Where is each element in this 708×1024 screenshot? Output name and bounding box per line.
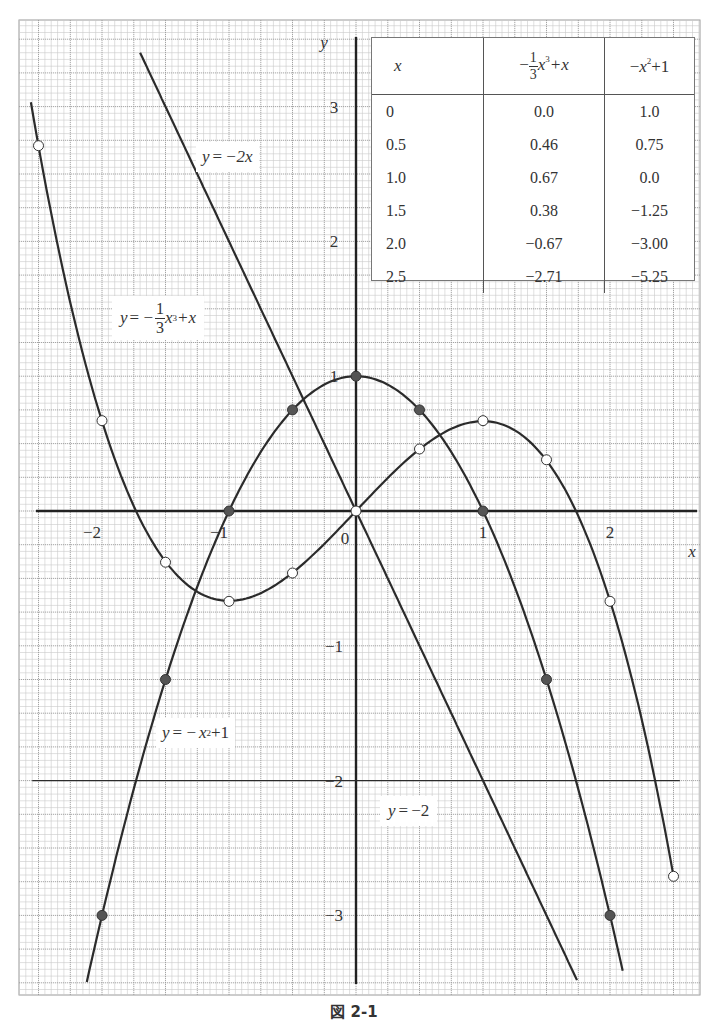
figure: −2−1120−3−2−1123xy x −13x3+x −x2+1 00.01… [0,0,708,1024]
filled-marker [605,910,615,920]
header-parab-sign: − [630,57,640,76]
table-row: 2.0−0.67−3.00 [372,227,694,260]
cell-parab: 1.0 [605,95,695,129]
label-eq: = [213,147,223,167]
cell-parab: −5.25 [605,260,695,293]
y-tick-label: −3 [325,906,343,925]
cell-x: 2.5 [372,260,484,293]
cell-parab: −1.25 [605,194,695,227]
open-marker [542,455,552,465]
header-cubic: −13x3+x [484,38,605,95]
cell-x: 1.0 [372,161,484,194]
table-row: 1.50.38−1.25 [372,194,694,227]
x-tick-label: 1 [479,523,488,542]
label-y-minus-2: y= −2 [380,796,437,826]
cell-parab: −3.00 [605,227,695,260]
open-marker [288,568,298,578]
open-marker [97,416,107,426]
filled-marker [542,675,552,685]
y-tick-label: −2 [325,772,343,791]
label-var: x [165,308,173,328]
open-marker [478,416,488,426]
cell-cubic: −2.71 [484,260,605,293]
open-marker [669,871,679,881]
y-axis-name: y [318,33,328,52]
label-eq: = [399,801,409,821]
table-row: 2.5−2.71−5.25 [372,260,694,293]
header-parabola: −x2+1 [605,38,695,95]
figure-caption: 図 2-1 [0,1000,708,1021]
cell-cubic: 0.67 [484,161,605,194]
x-tick-label: 2 [606,523,615,542]
label-cubic: y= −13x3+x [112,296,204,340]
filled-marker [161,675,171,685]
origin-label: 0 [341,529,350,548]
fraction-numerator: 1 [529,51,538,67]
label-parabola: y= −x2+1 [156,718,235,748]
label-rhs: −2 [411,801,429,821]
open-marker [351,506,361,516]
table-row: 0.50.460.75 [372,128,694,161]
cell-cubic: 0.46 [484,128,605,161]
filled-marker [288,405,298,415]
label-rhs: −2x [225,147,253,167]
header-cubic-suffix: +x [550,55,569,74]
open-marker [161,557,171,567]
fraction-numerator: 1 [155,301,165,319]
label-lhs: y [162,723,170,743]
header-cubic-sign: − [519,55,529,74]
label-lhs: y [120,308,128,328]
y-tick-label: 2 [330,232,339,251]
label-suffix: +x [177,308,196,328]
y-tick-label: 3 [330,98,339,117]
x-tick-label: −2 [83,523,101,542]
fraction: 13 [529,51,538,82]
label-eq: = − [173,723,196,743]
y-tick-label: 1 [330,367,339,386]
x-axis-name: x [687,542,696,561]
label-var: x [199,723,207,743]
y-tick-label: −1 [325,637,343,656]
cell-parab: 0.0 [605,161,695,194]
table-row: 00.01.0 [372,95,694,129]
fraction-denominator: 3 [530,67,537,82]
cell-x: 0.5 [372,128,484,161]
cell-cubic: −0.67 [484,227,605,260]
header-parab-suffix: +1 [651,57,669,76]
cell-parab: 0.75 [605,128,695,161]
filled-marker [415,405,425,415]
cell-cubic: 0.38 [484,194,605,227]
open-marker [34,141,44,151]
filled-marker [97,910,107,920]
header-x: x [372,38,484,95]
filled-marker [478,506,488,516]
fraction-denominator: 3 [156,319,164,336]
label-lhs: y [202,147,210,167]
header-parab-var: x [639,57,647,76]
filled-marker [351,371,361,381]
open-marker [415,444,425,454]
cell-x: 0 [372,95,484,129]
x-tick-label: −1 [210,523,228,542]
value-table: x −13x3+x −x2+1 00.01.0 0.50.460.75 1.00… [371,37,695,281]
cell-x: 1.5 [372,194,484,227]
label-suffix: +1 [211,723,229,743]
label-line-minus-2x: y= −2x [196,142,259,172]
open-marker [224,596,234,606]
table-header-row: x −13x3+x −x2+1 [372,38,694,95]
label-lhs: y [388,801,396,821]
cell-x: 2.0 [372,227,484,260]
table-row: 1.00.670.0 [372,161,694,194]
label-eq: = − [130,308,153,328]
fraction: 13 [155,301,165,336]
filled-marker [224,506,234,516]
open-marker [605,596,615,606]
cell-cubic: 0.0 [484,95,605,129]
